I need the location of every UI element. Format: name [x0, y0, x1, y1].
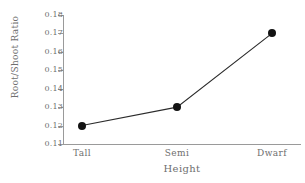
data-point-tall [78, 122, 86, 130]
line-chart-figure: 0.110.120.130.140.150.160.170.18 Root/Sh… [0, 0, 305, 183]
data-line [82, 33, 272, 125]
data-line-layer [0, 0, 305, 183]
